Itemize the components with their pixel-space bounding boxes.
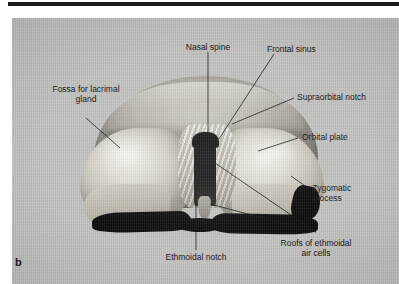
label-frontal-sinus: Frontal sinus [267,44,316,54]
anatomical-figure-panel: Nasal spine Frontal sinus Supraorbital n… [12,18,399,284]
label-fossa-lacrimal-line2: gland [76,94,97,104]
label-orbital-plate-line1: Orbital plate [302,132,348,142]
label-supraorbital-notch: Supraorbital notch [297,92,366,102]
label-ethmoidal-notch-line1: Ethmoidal notch [166,252,227,262]
label-fossa-lacrimal-line1: Fossa for lacrimal [52,84,119,94]
label-zygomatic-process: Zygomatic process [312,183,351,203]
label-roofs-ethmoidal-air-cells: Roofs of ethmoidal air cells [264,238,368,258]
label-roofs-ethmoidal-line2: air cells [302,248,331,258]
orbital-plate-right-highlight [248,138,300,168]
label-zygomatic-process-line2: process [312,193,342,203]
page-top-rule [8,2,399,6]
label-frontal-sinus-line1: Frontal sinus [267,44,316,54]
figure-page: Nasal spine Frontal sinus Supraorbital n… [0,0,399,284]
label-nasal-spine-line1: Nasal spine [186,42,230,52]
label-ethmoidal-notch: Ethmoidal notch [150,252,242,262]
label-orbital-plate: Orbital plate [302,132,348,142]
label-nasal-spine: Nasal spine [162,42,254,52]
label-supraorbital-notch-line1: Supraorbital notch [297,92,366,102]
label-roofs-ethmoidal-line1: Roofs of ethmoidal [281,238,352,248]
figure-part-letter: b [15,256,22,268]
label-fossa-for-lacrimal-gland: Fossa for lacrimal gland [42,84,130,104]
nasal-spine-structure [198,196,211,218]
label-zygomatic-process-line1: Zygomatic [312,183,351,193]
orbital-plate-left-highlight [98,138,150,168]
